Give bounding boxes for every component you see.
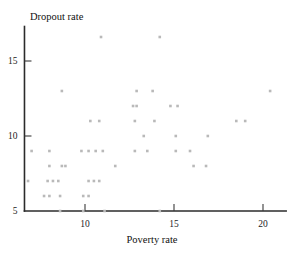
data-point <box>207 135 210 138</box>
data-point <box>192 165 195 168</box>
y-tick-label: 10 <box>8 131 18 141</box>
data-point <box>80 150 83 153</box>
data-point <box>102 150 105 153</box>
data-point <box>151 90 154 93</box>
y-tick-label: 15 <box>8 56 18 66</box>
data-point <box>48 195 51 198</box>
data-point <box>158 210 161 213</box>
data-point <box>46 180 49 183</box>
data-point <box>176 105 179 108</box>
data-point <box>87 150 90 153</box>
x-tick-label: 10 <box>80 219 90 229</box>
data-point <box>27 180 30 183</box>
data-point <box>48 165 51 168</box>
data-point <box>174 135 177 138</box>
data-point <box>174 150 177 153</box>
x-tick-label: 15 <box>169 219 179 229</box>
data-point <box>82 210 85 213</box>
data-point <box>135 90 138 93</box>
data-point <box>153 120 156 123</box>
data-point <box>52 180 55 183</box>
data-point <box>114 165 117 168</box>
data-point <box>48 150 51 153</box>
data-point <box>98 180 101 183</box>
data-point <box>134 150 137 153</box>
data-point <box>93 180 96 183</box>
x-tick-label: 20 <box>258 219 268 229</box>
data-point <box>134 120 137 123</box>
data-point <box>158 36 161 39</box>
data-point <box>235 120 238 123</box>
axes-group <box>24 27 286 212</box>
tick-labels-group: 10152051015 <box>8 56 268 229</box>
data-point <box>100 36 103 39</box>
data-point <box>64 165 67 168</box>
data-point <box>98 120 101 123</box>
data-point <box>57 180 60 183</box>
data-point <box>61 90 64 93</box>
data-point <box>103 210 106 213</box>
y-axis-title: Dropout rate <box>30 11 84 22</box>
x-axis-title: Poverty rate <box>126 234 177 245</box>
data-point <box>205 165 208 168</box>
scatter-plot-canvas: 10152051015 Dropout rate Poverty rate <box>0 0 301 255</box>
data-point <box>59 210 62 213</box>
data-point <box>87 180 90 183</box>
data-point <box>169 105 172 108</box>
data-point <box>89 120 92 123</box>
data-point <box>132 105 135 108</box>
data-point <box>87 195 90 198</box>
data-point <box>142 135 145 138</box>
data-point <box>82 195 85 198</box>
data-point <box>135 105 138 108</box>
data-point <box>59 195 62 198</box>
data-points-group <box>27 36 272 213</box>
data-point <box>30 150 33 153</box>
data-point <box>43 195 46 198</box>
data-point <box>189 150 192 153</box>
scatter-plot-figure: 10152051015 Dropout rate Poverty rate <box>0 0 301 255</box>
y-tick-label: 5 <box>13 206 18 216</box>
data-point <box>94 150 97 153</box>
data-point <box>61 165 64 168</box>
data-point <box>269 90 272 93</box>
data-point <box>146 150 149 153</box>
data-point <box>244 120 247 123</box>
